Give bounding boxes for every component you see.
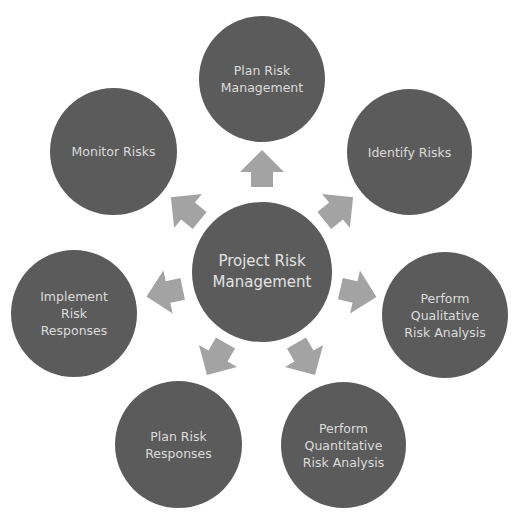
center-node-label: Project Risk Management xyxy=(213,251,312,293)
arrow-to-plan-risk-responses xyxy=(188,332,245,386)
node-plan-risk-responses: Plan Risk Responses xyxy=(115,381,242,508)
node-perform-quantitative-risk-analysis: Perform Quantitative Risk Analysis xyxy=(281,382,406,508)
node-perform-qualitative-risk-analysis: Perform Qualitative Risk Analysis xyxy=(382,252,508,378)
node-label: Perform Qualitative Risk Analysis xyxy=(404,290,485,341)
arrow-to-plan-risk-management xyxy=(240,150,284,187)
arrow-to-monitor-risks xyxy=(157,180,213,237)
node-plan-risk-management: Plan Risk Management xyxy=(199,16,325,142)
node-label: Plan Risk Responses xyxy=(145,428,212,462)
node-monitor-risks: Monitor Risks xyxy=(50,88,177,215)
arrow-to-qualitative-analysis xyxy=(335,267,381,318)
node-implement-risk-responses: Implement Risk Responses xyxy=(11,250,137,377)
node-label: Implement Risk Responses xyxy=(40,288,108,339)
center-node-project-risk-management: Project Risk Management xyxy=(192,202,332,342)
node-label: Plan Risk Management xyxy=(221,62,303,96)
node-label: Monitor Risks xyxy=(72,143,156,160)
node-label: Perform Quantitative Risk Analysis xyxy=(303,420,384,471)
arrow-to-implement-risk-responses xyxy=(142,267,187,318)
arrow-to-quantitative-analysis xyxy=(277,332,334,386)
node-identify-risks: Identify Risks xyxy=(347,89,472,215)
node-label: Identify Risks xyxy=(368,144,452,161)
